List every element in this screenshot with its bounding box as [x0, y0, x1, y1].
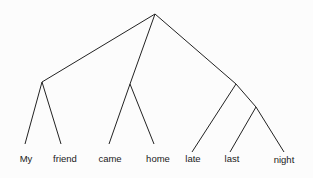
edge-np-friend	[42, 82, 61, 144]
leaf-home: home	[146, 153, 170, 164]
tree-edges	[0, 0, 313, 178]
edge-root-vp	[130, 14, 155, 84]
leaf-friend: friend	[53, 153, 77, 164]
edge-adv-sub	[236, 84, 256, 107]
edge-root-adv	[155, 14, 236, 84]
edge-vp-came	[109, 84, 130, 144]
edge-vp-home	[130, 84, 154, 144]
edge-sub-last	[230, 107, 256, 152]
edge-adv-late	[192, 84, 236, 152]
edge-np-my	[25, 82, 42, 144]
edge-sub-night	[256, 107, 284, 152]
edge-root-np	[42, 14, 155, 82]
syntax-tree-diagram: My friend came home late last night	[0, 0, 313, 178]
leaf-night: night	[274, 154, 295, 165]
leaf-late: late	[185, 153, 200, 164]
leaf-my: My	[20, 153, 33, 164]
leaf-last: last	[225, 153, 240, 164]
leaf-came: came	[98, 153, 121, 164]
